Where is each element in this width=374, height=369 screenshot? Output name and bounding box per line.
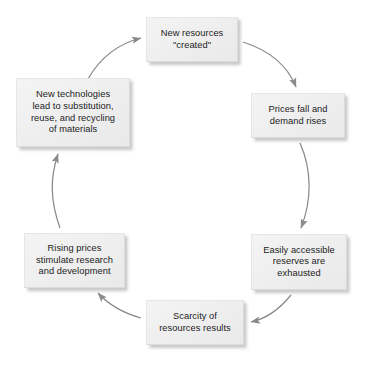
node-label: Easily accessible reserves are exhausted: [259, 245, 339, 280]
node-label: New technologies lead to substitution, r…: [27, 89, 119, 135]
edge-technologies-to-created: [88, 38, 141, 79]
node-new-resources-created[interactable]: New resources "created": [146, 17, 238, 62]
edge-reserves-to-scarcity: [251, 295, 291, 322]
node-label: Scarcity of resources results: [155, 311, 235, 334]
cycle-diagram: New resources "created" Prices fall and …: [0, 0, 374, 369]
edge-rising-to-technologies: [52, 154, 60, 228]
edge-prices-to-reserves: [300, 143, 309, 228]
edge-created-to-prices: [243, 42, 296, 87]
node-rising-prices-research[interactable]: Rising prices stimulate research and dev…: [24, 233, 125, 288]
node-prices-fall-demand-rises[interactable]: Prices fall and demand rises: [251, 93, 345, 138]
node-label: Prices fall and demand rises: [264, 104, 331, 127]
node-label: New resources "created": [157, 28, 228, 51]
node-reserves-exhausted[interactable]: Easily accessible reserves are exhausted: [251, 234, 347, 290]
node-scarcity-of-resources[interactable]: Scarcity of resources results: [146, 300, 244, 345]
node-new-technologies[interactable]: New technologies lead to substitution, r…: [16, 78, 130, 147]
edge-scarcity-to-rising: [98, 293, 141, 318]
node-label: Rising prices stimulate research and dev…: [32, 243, 117, 278]
